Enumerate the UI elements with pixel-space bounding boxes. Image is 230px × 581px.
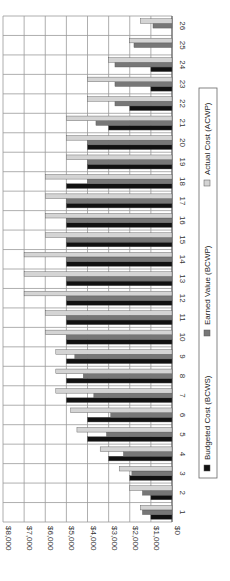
bar-actual-cost-acwp--18 [45, 174, 172, 179]
value-axis-ticks: $0$1,000$2,000$3,000$4,000$5,000$6,000$7… [4, 526, 182, 551]
bar-actual-cost-acwp--3 [119, 466, 172, 471]
bar-actual-cost-acwp--2 [130, 486, 172, 491]
category-label: 19 [178, 158, 187, 167]
bar-budgeted-cost-bcws--18 [66, 184, 172, 189]
bar-earned-value-bcwp--24 [115, 62, 172, 67]
bar-actual-cost-acwp--19 [66, 155, 172, 160]
category-label: 11 [178, 313, 187, 322]
bar-budgeted-cost-bcws--17 [66, 203, 172, 208]
category-label: 17 [178, 196, 187, 205]
category-label: 24 [178, 60, 187, 69]
bar-actual-cost-acwp--20 [66, 135, 172, 140]
bar-budgeted-cost-bcws--8 [66, 378, 172, 383]
bar-earned-value-bcwp--1 [142, 510, 172, 515]
bar-earned-value-bcwp--26 [153, 23, 172, 28]
category-label: 5 [178, 432, 187, 437]
bar-actual-cost-acwp--1 [140, 505, 172, 510]
value-tick-label: $6,000 [46, 526, 55, 551]
bar-earned-value-bcwp--5 [107, 432, 172, 437]
bar-budgeted-cost-bcws--7 [66, 398, 172, 403]
bar-actual-cost-acwp--17 [45, 194, 172, 199]
bar-earned-value-bcwp--19 [88, 160, 173, 165]
legend-swatch-icon [204, 180, 210, 186]
bar-budgeted-cost-bcws--14 [66, 262, 172, 267]
bar-actual-cost-acwp--24 [109, 58, 172, 63]
bar-earned-value-bcwp--3 [132, 471, 172, 476]
bar-budgeted-cost-bcws--3 [130, 476, 172, 481]
category-label: 12 [178, 294, 187, 303]
legend-label: Actual Cost (ACWP) [203, 102, 212, 175]
category-label: 18 [178, 177, 187, 186]
legend-swatch-icon [204, 465, 210, 471]
bar-actual-cost-acwp--10 [45, 330, 172, 335]
category-label: 21 [178, 119, 187, 128]
category-label: 23 [178, 80, 187, 89]
bar-budgeted-cost-bcws--20 [88, 145, 173, 150]
bar-earned-value-bcwp--6 [111, 413, 172, 418]
bar-actual-cost-acwp--8 [56, 369, 172, 374]
bar-earned-value-bcwp--14 [66, 257, 172, 262]
value-tick-label: $4,000 [89, 526, 98, 551]
bar-earned-value-bcwp--22 [115, 101, 172, 106]
bar-actual-cost-acwp--16 [45, 213, 172, 218]
value-tick-label: $1,000 [152, 526, 161, 551]
bar-earned-value-bcwp--21 [96, 121, 172, 126]
bar-earned-value-bcwp--13 [66, 276, 172, 281]
bar-budgeted-cost-bcws--21 [109, 125, 172, 130]
category-label: 7 [178, 393, 187, 398]
category-label: 15 [178, 235, 187, 244]
bar-actual-cost-acwp--4 [100, 447, 172, 452]
chart-grid [3, 16, 172, 522]
bar-budgeted-cost-bcws--16 [66, 223, 172, 228]
bar-earned-value-bcwp--4 [123, 452, 172, 457]
bar-earned-value-bcwp--15 [66, 237, 172, 242]
legend-label: Budgeted Cost (BCWS) [203, 375, 212, 460]
bar-actual-cost-acwp--6 [71, 408, 172, 413]
value-tick-label: $3,000 [110, 526, 119, 551]
category-label: 13 [178, 274, 187, 283]
bar-budgeted-cost-bcws--9 [66, 359, 172, 364]
earned-value-bar-chart: $0$1,000$2,000$3,000$4,000$5,000$6,000$7… [0, 0, 230, 581]
bar-earned-value-bcwp--17 [66, 199, 172, 204]
bar-actual-cost-acwp--7 [56, 388, 172, 393]
bar-budgeted-cost-bcws--24 [151, 67, 172, 72]
value-tick-label: $5,000 [67, 526, 76, 551]
bar-earned-value-bcwp--10 [66, 335, 172, 340]
bar-actual-cost-acwp--5 [77, 427, 172, 432]
bar-budgeted-cost-bcws--19 [88, 164, 173, 169]
category-label: 3 [178, 471, 187, 476]
bar-earned-value-bcwp--9 [75, 354, 172, 359]
bar-actual-cost-acwp--14 [24, 252, 172, 257]
bar-budgeted-cost-bcws--5 [88, 437, 173, 442]
bar-actual-cost-acwp--12 [24, 291, 172, 296]
bar-budgeted-cost-bcws--10 [66, 339, 172, 344]
bar-earned-value-bcwp--12 [66, 296, 172, 301]
bar-budgeted-cost-bcws--15 [66, 242, 172, 247]
category-label: 6 [178, 413, 187, 418]
bar-budgeted-cost-bcws--11 [66, 320, 172, 325]
bar-budgeted-cost-bcws--1 [151, 515, 172, 520]
bar-earned-value-bcwp--7 [94, 393, 172, 398]
bar-actual-cost-acwp--11 [45, 311, 172, 316]
legend-swatch-icon [204, 330, 210, 336]
bar-earned-value-bcwp--2 [142, 490, 172, 495]
bar-budgeted-cost-bcws--23 [151, 86, 172, 91]
value-tick-label: $8,000 [4, 526, 13, 551]
bar-actual-cost-acwp--22 [88, 97, 173, 102]
category-label: 1 [178, 510, 187, 515]
category-label: 4 [178, 452, 187, 457]
bar-budgeted-cost-bcws--13 [66, 281, 172, 286]
value-tick-label: $7,000 [25, 526, 34, 551]
legend-label: Earned Value (BCWP) [203, 245, 212, 325]
category-axis-labels: 1234567891011121314151617181920212223242… [178, 21, 187, 515]
bar-earned-value-bcwp--20 [88, 140, 173, 145]
bar-budgeted-cost-bcws--4 [109, 456, 172, 461]
bar-budgeted-cost-bcws--6 [88, 417, 173, 422]
category-label: 20 [178, 138, 187, 147]
bar-actual-cost-acwp--13 [24, 272, 172, 277]
category-label: 8 [178, 374, 187, 379]
category-label: 26 [178, 21, 187, 30]
bar-earned-value-bcwp--23 [115, 82, 172, 87]
value-tick-label: $2,000 [131, 526, 140, 551]
bar-earned-value-bcwp--8 [83, 374, 172, 379]
